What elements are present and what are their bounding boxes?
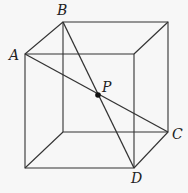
- label-P: P: [102, 80, 111, 94]
- edge-bottom-right: [134, 132, 168, 168]
- label-A: A: [9, 48, 19, 62]
- cube-diagram: B A P C D: [0, 0, 188, 193]
- edge-top-right: [134, 22, 168, 54]
- edge-bottom-left: [25, 132, 63, 168]
- front-face: [25, 54, 134, 168]
- label-D: D: [131, 171, 142, 185]
- back-face: [63, 22, 168, 132]
- label-B: B: [57, 3, 67, 17]
- cube-drawing: [0, 0, 188, 193]
- edge-top-left: [25, 22, 63, 54]
- label-C: C: [172, 127, 183, 141]
- point-P-dot: [95, 92, 101, 98]
